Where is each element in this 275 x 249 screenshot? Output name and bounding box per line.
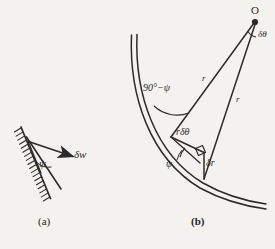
origin-point-dot [252,19,258,25]
caption-panel-b: (b) [191,216,204,227]
radius-lower-line [204,23,256,179]
label-psi-a: ψ [39,158,46,169]
curve-inner [137,35,266,205]
label-radius-upper: r [202,74,206,83]
label-delta-r: δr [206,158,215,168]
caption-panel-a: (a) [38,216,50,227]
label-delta-w: δw [74,149,86,160]
label-radius-lower: r [236,95,240,104]
label-origin-o: O [251,5,259,16]
panel-b-drawing [131,19,266,209]
label-psi-b: ψ [166,159,172,169]
label-arc-length: rδθ [176,127,189,137]
label-complement-angle: 90°−ψ [143,83,170,93]
radius-upper-line [171,23,254,137]
label-delta-theta: δθ [258,30,267,39]
wall-line [21,127,51,199]
arc-length-segment [171,137,204,153]
complement-angle-arc [154,106,189,115]
figure-container: δw ψ (a) O δθ r r rδθ δr ψ 90°−ψ (b) [0,0,275,249]
psi-angle-arc-b2 [177,150,182,160]
figure-drawing [0,0,275,249]
